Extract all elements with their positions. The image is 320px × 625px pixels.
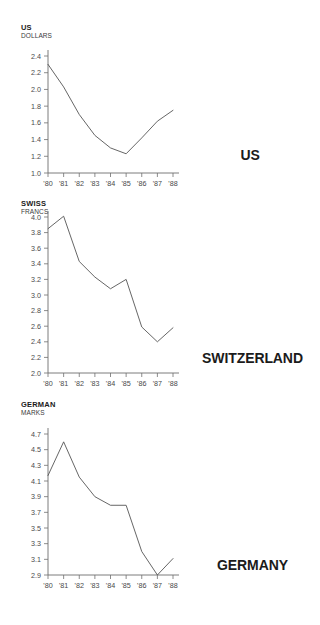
y-tick-label: 2.4 (31, 337, 41, 346)
y-tick-label: 3.2 (31, 275, 41, 284)
country-label-us: US (185, 147, 315, 163)
x-tick-label: '82 (75, 179, 84, 188)
x-tick-label: '86 (137, 179, 146, 188)
y-tick-label: 3.4 (31, 259, 41, 268)
y-tick-label: 1.4 (31, 135, 41, 144)
y-tick-label: 2.2 (31, 68, 41, 77)
x-tick-label: '88 (168, 379, 177, 388)
country-label-switzerland: SWITZERLAND (185, 350, 320, 366)
chart-panel-german: GERMAN MARKS 2.93.13.33.53.73.94.14.34.5… (0, 395, 320, 625)
x-tick-label: '84 (106, 581, 115, 590)
x-tick-label: '83 (90, 379, 99, 388)
y-tick-label: 2.0 (31, 85, 41, 94)
x-tick-label: '85 (121, 379, 130, 388)
x-tick-label: '82 (75, 379, 84, 388)
x-tick-label: '86 (137, 581, 146, 590)
line-chart-german: 2.93.13.33.53.73.94.14.34.54.7'80'81'82'… (0, 395, 320, 625)
y-tick-label: 3.5 (31, 524, 41, 533)
y-tick-label: 2.4 (31, 52, 41, 61)
chart-panel-us: US DOLLARS 1.01.21.41.61.82.02.22.4'80'8… (0, 0, 320, 195)
y-tick-label: 3.0 (31, 291, 41, 300)
data-series-line (48, 216, 173, 342)
y-tick-label: 2.9 (31, 571, 41, 580)
y-tick-label: 1.8 (31, 102, 41, 111)
y-tick-label: 3.9 (31, 492, 41, 501)
x-tick-label: '86 (137, 379, 146, 388)
data-series-line (48, 442, 173, 575)
x-tick-label: '82 (75, 581, 84, 590)
y-tick-label: 4.1 (31, 477, 41, 486)
x-tick-label: '81 (59, 581, 68, 590)
y-tick-label: 3.7 (31, 508, 41, 517)
x-tick-label: '85 (121, 581, 130, 590)
x-tick-label: '80 (43, 379, 52, 388)
x-tick-label: '87 (153, 179, 162, 188)
data-series-line (48, 64, 173, 153)
y-tick-label: 3.3 (31, 539, 41, 548)
x-tick-label: '83 (90, 581, 99, 590)
y-tick-label: 1.2 (31, 152, 41, 161)
chart-axes (48, 50, 179, 173)
y-tick-label: 4.7 (31, 430, 41, 439)
x-tick-label: '87 (153, 379, 162, 388)
x-tick-label: '84 (106, 179, 115, 188)
y-tick-label: 2.2 (31, 353, 41, 362)
x-tick-label: '81 (59, 379, 68, 388)
x-tick-label: '83 (90, 179, 99, 188)
y-tick-label: 3.6 (31, 244, 41, 253)
y-tick-label: 2.0 (31, 369, 41, 378)
y-tick-label: 1.6 (31, 118, 41, 127)
y-tick-label: 2.6 (31, 322, 41, 331)
country-label-germany: GERMANY (185, 557, 320, 573)
x-tick-label: '85 (121, 179, 130, 188)
line-chart-us: 1.01.21.41.61.82.02.22.4'80'81'82'83'84'… (0, 0, 320, 195)
y-tick-label: 1.0 (31, 169, 41, 178)
y-tick-label: 4.3 (31, 461, 41, 470)
y-tick-label: 3.8 (31, 228, 41, 237)
x-tick-label: '87 (153, 581, 162, 590)
x-tick-label: '88 (168, 581, 177, 590)
y-tick-label: 4.5 (31, 445, 41, 454)
y-tick-label: 4.0 (31, 213, 41, 222)
x-tick-label: '88 (168, 179, 177, 188)
x-tick-label: '84 (106, 379, 115, 388)
currency-chart-page: { "page": { "title": "Foreign Exchange R… (0, 0, 320, 625)
x-tick-label: '81 (59, 179, 68, 188)
y-tick-label: 2.8 (31, 306, 41, 315)
chart-axes (48, 211, 179, 373)
x-tick-label: '80 (43, 179, 52, 188)
y-tick-label: 3.1 (31, 555, 41, 564)
x-tick-label: '80 (43, 581, 52, 590)
